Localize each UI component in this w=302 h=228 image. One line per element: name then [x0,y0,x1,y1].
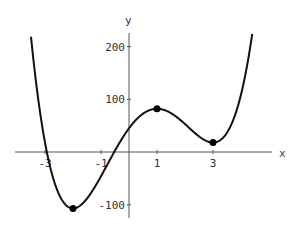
y-axis-label: y [125,14,132,27]
chart: x y -3-113-100100200 [0,0,302,228]
x-tick-label: 3 [210,157,217,170]
critical-point-marker [154,105,161,112]
critical-points [70,105,217,212]
critical-point-marker [70,205,77,212]
function-curve [31,34,252,208]
plot-area: x y -3-113-100100200 [0,0,302,228]
x-axis-label: x [279,147,286,160]
ticks: -3-113-100100200 [38,41,216,212]
y-tick-label: 100 [105,93,125,106]
y-tick-label: 200 [105,41,125,54]
y-tick-label: -100 [99,199,126,212]
x-tick-label: 1 [154,157,161,170]
critical-point-marker [210,139,217,146]
